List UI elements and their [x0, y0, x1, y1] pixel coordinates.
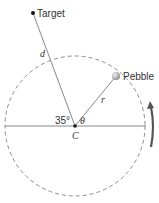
- pebble-icon: [112, 72, 120, 80]
- distance-label: d: [40, 48, 46, 59]
- radius-label: r: [101, 94, 105, 105]
- angle-35-label: 35°: [55, 115, 70, 126]
- target-label: Target: [37, 8, 65, 19]
- pebble-label: Pebble: [123, 71, 155, 82]
- theta-label: θ: [80, 115, 85, 126]
- target-point: [31, 11, 35, 15]
- rotation-arrow-icon: [151, 107, 153, 147]
- diagram-canvas: Target Pebble d r 35° θ C: [0, 0, 159, 203]
- center-label: C: [72, 130, 79, 141]
- distance-line-d: [33, 13, 75, 126]
- arrow-head: [147, 101, 154, 109]
- center-point: [74, 125, 77, 128]
